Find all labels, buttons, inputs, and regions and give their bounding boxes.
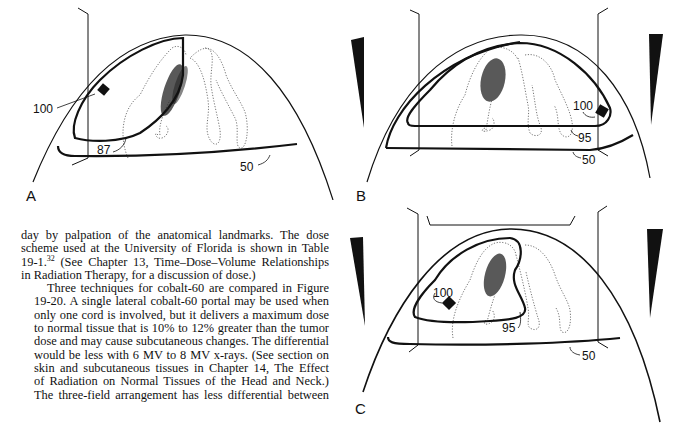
wedge-left-icon — [350, 237, 365, 326]
text-line: 19-20. A single lateral cobalt-60 portal… — [21, 295, 329, 308]
text-fragment: (See Chapter 13, Time–Dose–Volume Relati… — [55, 255, 329, 269]
text-line: to normal tissue that is 10% to 12% grea… — [21, 322, 329, 335]
wedge-right-icon — [647, 229, 663, 318]
isodose-diagram-c: 100 95 50 — [330, 200, 689, 436]
isodose-label-95: 95 — [502, 321, 516, 335]
text-line: only one cord is involved, but it delive… — [21, 309, 329, 322]
isodose-label-50: 50 — [582, 153, 596, 167]
isodose-label-87: 87 — [97, 143, 111, 157]
citation-superscript: 32 — [47, 253, 55, 262]
panel-label-a: A — [26, 187, 36, 204]
text-line: skin and subcutaneous tissues in Chapter… — [21, 362, 329, 375]
wedge-left-icon — [351, 37, 364, 128]
text-line: scheme used at the University of Florida… — [21, 242, 329, 255]
isodose-label-100: 100 — [573, 99, 593, 113]
text-line: dose and may cause subcutaneous changes.… — [21, 335, 329, 348]
isodose-diagram-a: 100 87 50 — [0, 0, 340, 200]
text-line: of Radiation on Normal Tissues of the He… — [21, 375, 329, 388]
paragraph-2: Three techniques for cobalt-60 are compa… — [21, 282, 329, 402]
text-line: The three-field arrangement has less dif… — [21, 389, 329, 402]
figure-panel-c: 100 95 50 C — [330, 200, 689, 436]
isodose-label-95: 95 — [578, 131, 592, 145]
text-line: day by palpation of the anatomical landm… — [21, 229, 329, 242]
text-line: in Radiation Therapy, for a discussion o… — [21, 269, 329, 282]
figure-panel-a: 100 87 50 A — [0, 0, 340, 200]
max-dose-marker-icon — [97, 83, 110, 96]
body-text: day by palpation of the anatomical landm… — [21, 229, 329, 402]
max-dose-marker-icon — [595, 104, 609, 118]
figure-panel-b: 100 95 50 B — [340, 0, 689, 200]
text-line: Three techniques for cobalt-60 are compa… — [21, 282, 329, 295]
text-line: would be less with 6 MV to 8 MV x-rays. … — [21, 349, 329, 362]
text-line: 19-1.32 (See Chapter 13, Time–Dose–Volum… — [21, 256, 329, 269]
wedge-right-icon — [649, 34, 663, 125]
isodose-diagram-b: 100 95 50 — [340, 0, 689, 200]
paragraph-1: day by palpation of the anatomical landm… — [21, 229, 329, 282]
isodose-label-50: 50 — [240, 160, 254, 174]
table-reference: 19-1. — [21, 255, 47, 269]
panel-label-c: C — [355, 400, 366, 417]
isodose-label-50: 50 — [582, 349, 596, 363]
isodose-label-100: 100 — [433, 286, 453, 300]
isodose-label-100: 100 — [33, 102, 53, 116]
